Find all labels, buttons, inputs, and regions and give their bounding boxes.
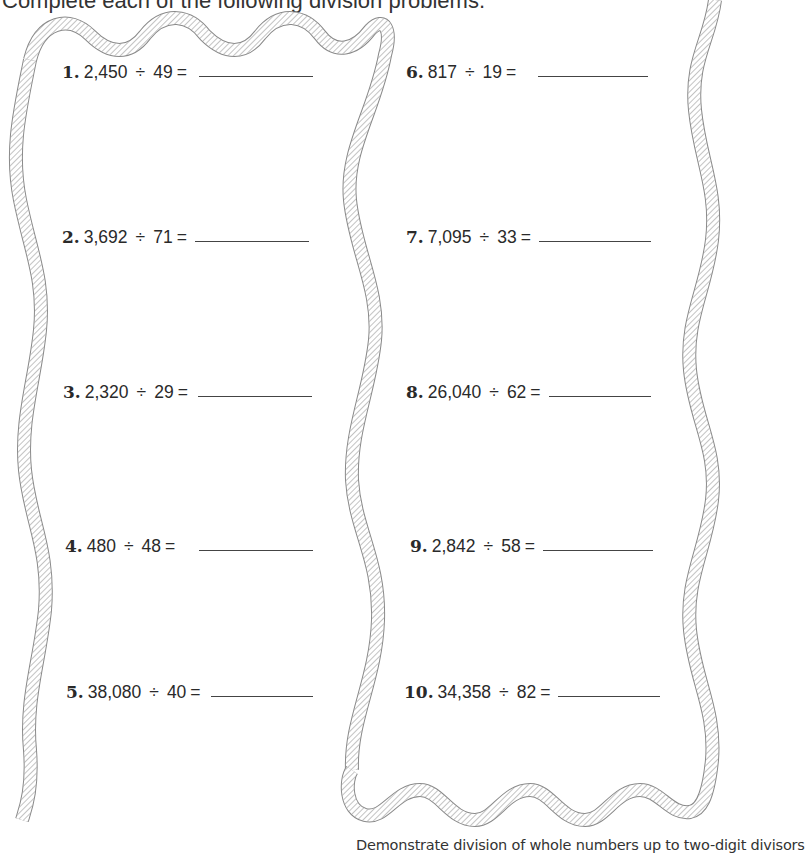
- problem-number: 6.: [406, 62, 424, 82]
- problem-number: 8.: [406, 382, 424, 402]
- problem-4: 4. 480 ÷ 48 =: [65, 536, 313, 557]
- equals-sign: =: [177, 62, 187, 83]
- divisor: 29: [154, 382, 173, 403]
- equals-sign: =: [525, 536, 535, 557]
- answer-blank[interactable]: [199, 549, 313, 551]
- problem-7: 7. 7,095 ÷ 33 =: [406, 227, 651, 248]
- divide-operator: ÷: [465, 62, 475, 83]
- divide-operator: ÷: [484, 536, 494, 557]
- dividend: 7,095: [428, 227, 472, 248]
- learning-objective: Demonstrate division of whole numbers up…: [356, 837, 805, 853]
- equals-sign: =: [178, 382, 188, 403]
- divide-operator: ÷: [136, 227, 146, 248]
- divisor: 62: [507, 382, 526, 403]
- problem-number: 10.: [404, 682, 434, 702]
- divide-operator: ÷: [499, 682, 509, 703]
- divisor: 58: [501, 536, 520, 557]
- problem-number: 4.: [65, 536, 83, 556]
- dividend: 3,692: [84, 227, 128, 248]
- dividend: 2,450: [84, 62, 128, 83]
- divisor: 48: [142, 536, 161, 557]
- answer-blank[interactable]: [198, 395, 312, 397]
- problem-8: 8. 26,040 ÷ 62 =: [406, 382, 651, 403]
- divisor: 49: [153, 62, 172, 83]
- divisor: 19: [483, 62, 502, 83]
- problem-number: 3.: [63, 382, 81, 402]
- problem-10: 10. 34,358 ÷ 82 =: [404, 682, 660, 703]
- divide-operator: ÷: [136, 62, 146, 83]
- dividend: 26,040: [428, 382, 482, 403]
- equals-sign: =: [177, 227, 187, 248]
- divisor: 40: [167, 682, 186, 703]
- equals-sign: =: [506, 62, 516, 83]
- problem-6: 6. 817 ÷ 19 =: [406, 62, 648, 83]
- problem-number: 2.: [62, 227, 80, 247]
- dividend: 817: [428, 62, 457, 83]
- dividend: 480: [87, 536, 116, 557]
- answer-blank[interactable]: [543, 549, 653, 551]
- divisor: 71: [153, 227, 172, 248]
- divide-operator: ÷: [489, 382, 499, 403]
- equals-sign: =: [521, 227, 531, 248]
- answer-blank[interactable]: [199, 75, 313, 77]
- divide-operator: ÷: [149, 682, 159, 703]
- dividend: 38,080: [88, 682, 142, 703]
- problem-3: 3. 2,320 ÷ 29 =: [63, 382, 312, 403]
- problem-9: 9. 2,842 ÷ 58 =: [410, 536, 653, 557]
- answer-blank[interactable]: [538, 75, 648, 77]
- problem-2: 2. 3,692 ÷ 71 =: [62, 227, 309, 248]
- dividend: 34,358: [438, 682, 492, 703]
- problem-1: 1. 2,450 ÷ 49 =: [62, 62, 313, 83]
- divide-operator: ÷: [124, 536, 134, 557]
- divisor: 33: [497, 227, 516, 248]
- equals-sign: =: [530, 382, 540, 403]
- equals-sign: =: [165, 536, 175, 557]
- answer-blank[interactable]: [549, 395, 651, 397]
- answer-blank[interactable]: [211, 695, 313, 697]
- dividend: 2,320: [85, 382, 129, 403]
- dividend: 2,842: [432, 536, 476, 557]
- problem-number: 7.: [406, 227, 424, 247]
- divisor: 82: [517, 682, 536, 703]
- problem-number: 9.: [410, 536, 428, 556]
- problem-number: 5.: [66, 682, 84, 702]
- equals-sign: =: [190, 682, 200, 703]
- problem-number: 1.: [62, 62, 80, 82]
- divide-operator: ÷: [480, 227, 490, 248]
- problem-5: 5. 38,080 ÷ 40 =: [66, 682, 313, 703]
- equals-sign: =: [540, 682, 550, 703]
- divide-operator: ÷: [137, 382, 147, 403]
- answer-blank[interactable]: [195, 240, 309, 242]
- answer-blank[interactable]: [539, 240, 651, 242]
- answer-blank[interactable]: [558, 695, 660, 697]
